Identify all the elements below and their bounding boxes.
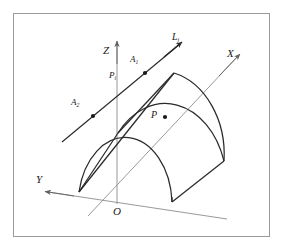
point-label-p: P: [151, 110, 157, 120]
point-p-marker: [163, 115, 167, 119]
line-label-L: Lj: [172, 32, 179, 42]
point-label-pi: Pi: [109, 71, 116, 80]
axis-label-x: X: [227, 48, 234, 59]
front-arch: [79, 138, 172, 202]
point-a1-marker: [143, 71, 147, 75]
vault-left-edge: [79, 133, 118, 192]
figure-frame: Z X Y O Lj A1 A2 Pi P: [13, 13, 270, 237]
axis-label-y: Y: [36, 174, 42, 185]
point-label-a1: A1: [130, 55, 138, 64]
axis-label-z: Z: [103, 45, 109, 56]
point-a2-marker: [91, 114, 95, 118]
cutoff-fragment-a: n: [146, 0, 150, 2]
vault-interior-fold: [79, 73, 174, 192]
point-label-a2: A2: [71, 98, 79, 107]
origin-label: O: [113, 206, 121, 217]
back-arch: [118, 104, 224, 161]
cutoff-text-strip: n m: [0, 0, 287, 9]
axis-y: [45, 192, 227, 220]
vault-base-edge: [172, 161, 224, 202]
cutoff-fragment-b: m: [186, 0, 192, 2]
figure-page: n m: [0, 0, 287, 252]
